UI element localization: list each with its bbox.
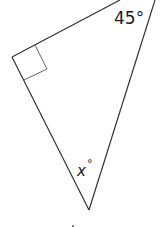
right-angle-marker bbox=[24, 45, 47, 80]
angle-45-label: 45° bbox=[114, 8, 144, 28]
side-left bbox=[12, 57, 89, 210]
triangle-diagram: 45° x ° bbox=[0, 0, 161, 227]
side-right bbox=[89, 0, 155, 210]
angle-x-degree: ° bbox=[87, 157, 93, 170]
stray-dot bbox=[72, 225, 74, 227]
side-top bbox=[12, 0, 120, 57]
angle-x-label: x bbox=[76, 162, 86, 180]
